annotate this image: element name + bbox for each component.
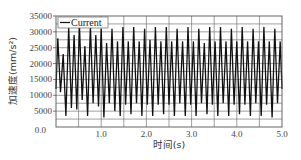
legend: Current	[58, 17, 108, 28]
x-tick-label: 1.0	[96, 129, 108, 139]
y-tick-label: 5000	[34, 106, 53, 116]
x-tick-label: 5.0	[276, 129, 288, 139]
y-tick-label: 20000	[30, 59, 53, 69]
y-axis-label: 加速度(mm/s²)	[7, 37, 18, 105]
x-axis-label: 时间(s)	[153, 139, 185, 150]
y-axis-ticks: 50001000015000200002500030000350000.0	[30, 11, 57, 135]
x-axis-ticks: 1.02.03.04.05.0	[96, 129, 289, 139]
y-tick-label: 25000	[30, 43, 53, 53]
y-tick-label: 10000	[30, 90, 53, 100]
x-tick-label: 2.0	[141, 129, 153, 139]
y-tick-label: 30000	[30, 27, 53, 37]
x-tick-label: 4.0	[231, 129, 243, 139]
y-tick-label: 35000	[30, 11, 53, 21]
y-tick-label-zero: 0.0	[35, 125, 47, 135]
legend-label-current: Current	[71, 17, 102, 28]
x-tick-label: 3.0	[186, 129, 198, 139]
acceleration-chart: 50001000015000200002500030000350000.0 1.…	[0, 0, 301, 160]
y-tick-label: 15000	[30, 74, 53, 84]
